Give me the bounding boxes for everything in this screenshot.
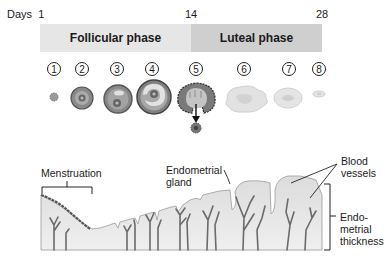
vessels-label-line1: Blood [341, 155, 376, 167]
thickness-label-line2: metrial [340, 223, 384, 235]
blood-vessels-label: Blood vessels [341, 155, 376, 179]
menstruation-label: Menstruation [41, 167, 102, 179]
endometrial-gland-label: Endometrial gland [166, 164, 222, 188]
vessels-label-line2: vessels [341, 167, 376, 179]
gland-label-line1: Endometrial [166, 164, 222, 176]
thickness-label-line3: thickness [340, 235, 384, 247]
gland-label-line2: gland [166, 176, 222, 188]
endometrial-thickness-label: Endo- metrial thickness [340, 211, 384, 247]
endometrium-illustration [0, 0, 391, 280]
thickness-label-line1: Endo- [340, 211, 384, 223]
